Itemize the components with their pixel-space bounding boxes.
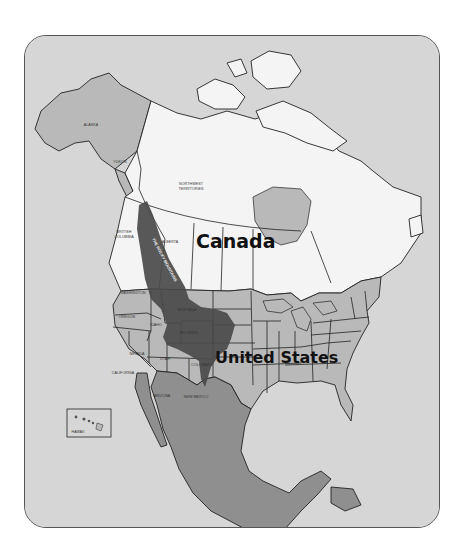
label-montana: MONTANA [178,308,197,312]
label-bc-1: BRITISH [117,230,132,234]
label-nevada: NEVADA [129,352,145,356]
newfoundland [409,215,423,237]
label-idaho: IDAHO [150,323,162,327]
label-canada: Canada [196,230,276,252]
label-united-states: United States [215,348,338,367]
label-utah: UTAH [160,357,170,361]
label-oregon: OREGON [119,315,136,319]
label-colorado: COLORADO [191,363,212,367]
label-nwt-2: TERRITORIES [178,187,204,191]
label-alberta: ALBERTA [162,240,179,244]
label-arizona: ARIZONA [154,394,171,398]
label-new-mexico: NEW MEXICO [184,395,209,399]
label-hawaii: HAWAII [71,430,84,434]
label-alaska: ALASKA [84,123,99,127]
map-frame: THE ROCKY MOUNTAINS HAWAII ALASKA YUKON … [24,35,440,528]
label-wyoming: WYOMING [180,331,199,335]
label-yukon: YUKON [113,160,127,164]
north-america-map: THE ROCKY MOUNTAINS HAWAII ALASKA YUKON … [25,36,440,528]
label-nwt-1: NORTHWEST [179,182,204,186]
label-washington: WASHINGTON [120,291,146,295]
hawaii-inset: HAWAII [67,409,111,437]
label-bc-2: COLUMBIA [114,235,134,239]
label-california: CALIFORNIA [112,371,135,375]
